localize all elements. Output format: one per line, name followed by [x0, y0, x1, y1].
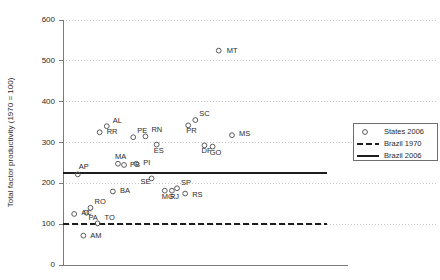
data-point-label-am: AM	[90, 231, 101, 240]
legend-label-brazil-2006: Brazil 2006	[384, 151, 422, 160]
data-point-label-to: TO	[105, 213, 115, 222]
y-tick-label-300: 300	[42, 138, 56, 147]
y-tick-label-500: 500	[42, 56, 56, 65]
y-tick-label-600: 600	[42, 15, 56, 24]
data-point-label-ms: MS	[239, 129, 250, 138]
y-tick-label-400: 400	[42, 97, 56, 106]
y-axis-title: Total factor productivity (1970 = 100)	[6, 77, 15, 207]
data-point-label-sp: SP	[181, 178, 191, 187]
data-point-label-pr: PR	[186, 126, 197, 135]
data-point-label-es: ES	[154, 146, 164, 155]
y-axis-title-text: Total factor productivity (1970 = 100)	[6, 77, 15, 207]
tfp-scatter-chart: 0100200300400500600 ACAMAPPARORRTOALBAMA…	[0, 0, 440, 280]
chart-legend: States 2006Brazil 1970Brazil 2006	[353, 123, 437, 160]
data-point-mt	[216, 48, 221, 53]
legend-label-brazil-1970: Brazil 1970	[384, 139, 422, 148]
chart-container: 0100200300400500600 ACAMAPPARORRTOALBAMA…	[0, 0, 440, 280]
data-point-label-go: GO	[210, 148, 222, 157]
data-point-label-pa: PA	[88, 213, 97, 222]
data-point-label-pi: PI	[143, 158, 150, 167]
y-tick-label-200: 200	[42, 178, 56, 187]
y-axis-ticks: 0100200300400500600	[42, 15, 63, 269]
data-point-rr	[97, 130, 102, 135]
data-point-pe	[131, 135, 136, 140]
data-point-rs	[183, 191, 188, 196]
data-point-pb	[122, 163, 127, 168]
data-point-label-ap: AP	[79, 162, 89, 171]
data-point-ba	[110, 189, 115, 194]
y-tick-label-100: 100	[42, 219, 56, 228]
data-point-label-sc: SC	[199, 109, 210, 118]
data-point-ma	[116, 161, 121, 166]
data-point-label-al: AL	[113, 116, 122, 125]
data-point-sc	[193, 118, 198, 123]
data-point-ms	[230, 133, 235, 138]
data-point-label-rj: RJ	[170, 192, 179, 201]
legend-label-states-2006: States 2006	[384, 127, 424, 136]
data-point-label-se: SE	[141, 177, 151, 186]
data-point-sp	[175, 186, 180, 191]
data-point-ac	[72, 212, 77, 217]
data-point-label-ba: BA	[120, 186, 130, 195]
data-point-label-ma: MA	[115, 152, 126, 161]
data-point-label-rn: RN	[151, 125, 162, 134]
data-point-am	[81, 233, 86, 238]
data-point-label-rr: RR	[107, 127, 118, 136]
data-points: ACAMAPPARORRTOALBAMAPBPEPIRNSEESMGRJSPPR…	[72, 46, 250, 240]
data-point-label-ro: RO	[94, 197, 105, 206]
data-point-label-mt: MT	[227, 46, 238, 55]
data-point-label-rs: RS	[192, 190, 202, 199]
y-tick-label-0: 0	[51, 260, 56, 269]
